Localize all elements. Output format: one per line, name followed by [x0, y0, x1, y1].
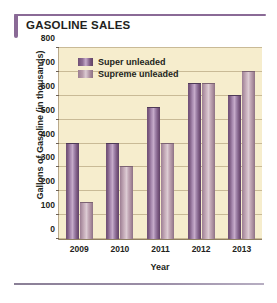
bar-group-2012	[181, 48, 222, 239]
page-title: GASOLINE SALES	[26, 19, 130, 31]
legend-swatch-supreme-unleaded	[78, 70, 93, 78]
bottom-rule	[14, 283, 264, 285]
x-tick-label-2013: 2013	[232, 244, 251, 254]
x-tick-label-2012: 2012	[192, 244, 211, 254]
plot-area: 0100200300400500600700800 Super unleaded…	[58, 48, 262, 240]
title-bracket-accent	[14, 14, 18, 38]
y-tick-label: 800	[41, 33, 55, 43]
chart-legend: Super unleaded Supreme unleaded	[75, 54, 183, 82]
bar-2010-supreme	[120, 166, 133, 239]
bar-2011-supreme	[161, 143, 174, 240]
y-tick-label: 200	[41, 176, 55, 186]
y-tick-label: 700	[41, 57, 55, 67]
legend-swatch-super-unleaded	[78, 58, 93, 66]
y-tick-label: 300	[41, 152, 55, 162]
y-tick-label: 0	[50, 224, 55, 234]
legend-item: Supreme unleaded	[78, 68, 179, 80]
bar-2009-super	[66, 143, 79, 240]
bar-group-2013	[221, 48, 262, 239]
bar-2013-super	[228, 95, 241, 239]
bar-2009-supreme	[80, 202, 93, 239]
title-top-rule	[14, 14, 266, 16]
bar-2010-super	[106, 143, 119, 240]
bar-2012-supreme	[202, 83, 215, 239]
bar-2012-super	[188, 83, 201, 239]
legend-label: Super unleaded	[98, 57, 166, 67]
x-axis-label: Year	[58, 262, 262, 272]
legend-label: Supreme unleaded	[98, 69, 179, 79]
legend-item: Super unleaded	[78, 56, 179, 68]
bar-2013-supreme	[242, 71, 255, 239]
x-tick-label-2011: 2011	[151, 244, 169, 254]
y-tick-label: 500	[41, 105, 55, 115]
x-tick-label-2009: 2009	[70, 244, 89, 254]
y-tick-label: 100	[41, 200, 55, 210]
y-tick-label: 400	[41, 129, 55, 139]
bar-2011-super	[147, 107, 160, 239]
x-tick-label-2010: 2010	[110, 244, 129, 254]
chart-figure: Gallons of Gasoline (in thousands) 01002…	[14, 46, 262, 274]
y-tick-label: 600	[41, 81, 55, 91]
